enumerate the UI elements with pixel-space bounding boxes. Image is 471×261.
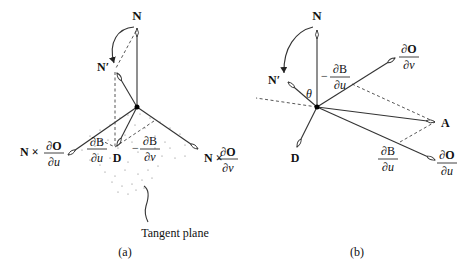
label-dv: ∂v bbox=[403, 58, 415, 72]
label-db: ∂B bbox=[333, 62, 347, 76]
label-n: N bbox=[132, 8, 142, 23]
label-du: ∂u bbox=[334, 78, 346, 92]
label-du: ∂u bbox=[91, 151, 103, 165]
label-do: ∂O bbox=[439, 148, 454, 162]
label-theta: θ bbox=[306, 87, 312, 101]
label-db: ∂B bbox=[381, 144, 395, 158]
label-n-prime: N′ bbox=[97, 60, 109, 74]
label-db: ∂B bbox=[90, 135, 104, 149]
label-d: D bbox=[291, 151, 300, 165]
origin-point bbox=[315, 105, 320, 110]
construction-dash bbox=[400, 122, 435, 142]
label-du: ∂u bbox=[48, 155, 60, 169]
label-db: ∂B bbox=[143, 134, 157, 148]
label-d: D bbox=[113, 151, 122, 165]
label-dv: ∂v bbox=[144, 150, 156, 164]
caption-a: (a) bbox=[118, 245, 131, 259]
label-a: A bbox=[441, 116, 450, 130]
label-tangent-plane: Tangent plane bbox=[141, 226, 208, 240]
label-du: ∂u bbox=[382, 160, 394, 174]
label-n: N bbox=[312, 8, 322, 23]
figure-a: N N′ N × ∂O ∂u ∂B ∂u D − ∂B ∂v N × ∂O ∂v… bbox=[20, 8, 238, 259]
label-n-prime: N′ bbox=[268, 73, 280, 87]
origin-point bbox=[135, 105, 140, 110]
label-n-cross-du-prefix: N × bbox=[20, 145, 39, 159]
label-minus: − bbox=[132, 141, 139, 155]
label-minus: − bbox=[321, 69, 328, 83]
do-dv-vector bbox=[317, 58, 395, 107]
label-do: ∂O bbox=[401, 42, 416, 56]
label-do: ∂O bbox=[220, 145, 235, 159]
normal-prime-vector bbox=[117, 73, 137, 107]
displacement-vector bbox=[297, 107, 317, 147]
label-dv: ∂v bbox=[222, 161, 234, 175]
tangent-plane-leader bbox=[144, 186, 148, 222]
bump-mapping-diagram: N N′ N × ∂O ∂u ∂B ∂u D − ∂B ∂v N × ∂O ∂v… bbox=[0, 0, 471, 261]
rotation-arrow bbox=[284, 27, 313, 73]
label-do: ∂O bbox=[46, 139, 61, 153]
construction-dash bbox=[116, 31, 136, 68]
label-du: ∂u bbox=[441, 164, 453, 178]
figure-b: N N′ θ − ∂B ∂u ∂O ∂v A ∂B ∂u ∂O ∂u D (b) bbox=[256, 8, 457, 259]
rotation-arrow bbox=[112, 27, 134, 63]
caption-b: (b) bbox=[350, 245, 364, 259]
